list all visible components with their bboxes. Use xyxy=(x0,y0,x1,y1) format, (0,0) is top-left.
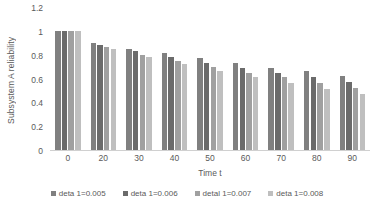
bar-group xyxy=(157,8,193,150)
bar[interactable] xyxy=(126,49,132,150)
bar[interactable] xyxy=(168,57,174,150)
bar[interactable] xyxy=(133,51,139,150)
legend-swatch-icon xyxy=(51,191,56,196)
bar[interactable] xyxy=(304,71,310,150)
bar[interactable] xyxy=(104,47,110,150)
bar[interactable] xyxy=(204,63,210,150)
y-axis-tick-label: 0.8 xyxy=(31,51,43,61)
bar[interactable] xyxy=(146,57,152,150)
bar[interactable] xyxy=(75,31,81,150)
bar[interactable] xyxy=(311,77,317,150)
bar-group xyxy=(86,8,122,150)
bar-chart: Subsystem A reliability 00.20.40.60.811.… xyxy=(0,0,374,214)
bar[interactable] xyxy=(340,76,346,150)
bar[interactable] xyxy=(240,68,246,150)
x-axis-tick-label: 40 xyxy=(157,153,193,163)
bar[interactable] xyxy=(162,53,168,150)
x-axis-ticks: 02030405060708090 xyxy=(50,153,370,163)
legend-item[interactable]: deta 1=0.008 xyxy=(268,189,323,198)
bar-group xyxy=(192,8,228,150)
y-axis-title: Subsystem A reliability xyxy=(2,0,20,160)
bar-group xyxy=(121,8,157,150)
y-axis-tick-label: 0.4 xyxy=(31,98,43,108)
bar[interactable] xyxy=(111,49,117,150)
legend-item[interactable]: deta 1=0.006 xyxy=(123,189,178,198)
chart-legend: deta 1=0.005deta 1=0.006detal 1=0.007det… xyxy=(0,189,374,198)
x-axis-tick-label: 70 xyxy=(263,153,299,163)
bar-group xyxy=(299,8,335,150)
bar-group xyxy=(228,8,264,150)
bar[interactable] xyxy=(91,43,97,150)
bar-group xyxy=(335,8,371,150)
x-axis-tick-label: 20 xyxy=(86,153,122,163)
bar[interactable] xyxy=(55,31,61,150)
bar-group xyxy=(263,8,299,150)
x-axis-tick-label: 0 xyxy=(50,153,86,163)
bar[interactable] xyxy=(253,77,259,150)
legend-swatch-icon xyxy=(268,191,273,196)
legend-label: detal 1=0.007 xyxy=(203,189,252,198)
legend-label: deta 1=0.006 xyxy=(131,189,178,198)
bar[interactable] xyxy=(175,61,181,150)
bar[interactable] xyxy=(62,31,68,150)
bar[interactable] xyxy=(182,64,188,150)
bar[interactable] xyxy=(217,71,223,150)
bar[interactable] xyxy=(346,82,352,150)
bar[interactable] xyxy=(246,73,252,150)
legend-label: deta 1=0.008 xyxy=(276,189,323,198)
y-axis-tick-label: 1 xyxy=(38,27,43,37)
y-axis-tick-label: 0.6 xyxy=(31,75,43,85)
y-axis-title-label: Subsystem A reliability xyxy=(6,37,16,124)
x-axis-tick-label: 30 xyxy=(121,153,157,163)
legend-item[interactable]: deta 1=0.005 xyxy=(51,189,106,198)
bar[interactable] xyxy=(68,31,74,150)
bar[interactable] xyxy=(317,83,323,150)
legend-label: deta 1=0.005 xyxy=(59,189,106,198)
x-axis-tick-label: 80 xyxy=(299,153,335,163)
y-axis-ticks: 00.20.40.60.811.2 xyxy=(22,8,46,151)
bar[interactable] xyxy=(353,88,359,150)
plot-wrapper: 00.20.40.60.811.2 02030405060708090 Time… xyxy=(22,8,370,158)
bar[interactable] xyxy=(97,45,103,150)
x-axis-tick-label: 50 xyxy=(192,153,228,163)
x-axis-tick-label: 90 xyxy=(335,153,371,163)
legend-swatch-icon xyxy=(123,191,128,196)
x-axis-title: Time t xyxy=(50,168,370,178)
plot-area xyxy=(50,8,370,151)
bar[interactable] xyxy=(282,77,288,150)
bar[interactable] xyxy=(275,73,281,150)
bars-layer xyxy=(50,8,370,150)
x-axis-tick-label: 60 xyxy=(228,153,264,163)
bar[interactable] xyxy=(140,55,146,150)
bar[interactable] xyxy=(268,68,274,150)
bar[interactable] xyxy=(324,89,330,150)
y-axis-tick-label: 0 xyxy=(38,146,43,156)
bar[interactable] xyxy=(197,58,203,150)
legend-swatch-icon xyxy=(195,191,200,196)
bar[interactable] xyxy=(211,67,217,150)
legend-item[interactable]: detal 1=0.007 xyxy=(195,189,252,198)
y-axis-tick-label: 0.2 xyxy=(31,122,43,132)
y-axis-tick-label: 1.2 xyxy=(31,3,43,13)
bar[interactable] xyxy=(360,94,366,150)
bar-group xyxy=(50,8,86,150)
bar[interactable] xyxy=(288,83,294,150)
bar[interactable] xyxy=(233,63,239,150)
